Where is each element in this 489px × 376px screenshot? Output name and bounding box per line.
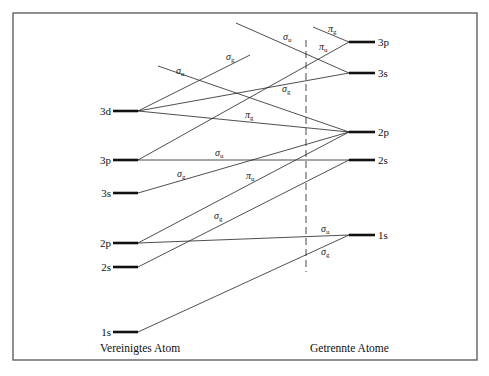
symmetry-label: σu — [283, 31, 292, 44]
correlation-line — [138, 73, 349, 111]
level-label-1s: 1s — [378, 229, 388, 241]
united-atom-label: Vereinigtes Atom — [100, 342, 180, 355]
level-label-3p: 3p — [100, 154, 112, 166]
symmetry-label: σu — [321, 223, 330, 236]
level-label-3s: 3s — [378, 67, 388, 79]
correlation-line — [138, 132, 349, 243]
correlation-line — [138, 111, 349, 132]
level-label-2s: 2s — [378, 154, 388, 166]
separated-atoms-label: Getrennte Atome — [310, 342, 389, 354]
correlation-line — [138, 160, 349, 267]
separated-atom-levels: 3p3s2p2s1s — [349, 36, 390, 241]
united-atom-levels: 3d3p3s2p2s1s — [100, 105, 138, 338]
level-label-3d: 3d — [100, 105, 112, 117]
correlation-line — [138, 235, 349, 332]
level-label-2p: 2p — [100, 237, 112, 249]
symmetry-label: σu — [215, 147, 224, 160]
level-label-1s: 1s — [101, 326, 111, 338]
correlation-diagram: σgσgπgσuσuπgπuσuσgπuσuσgσg 3d3p3s2p2s1s … — [0, 0, 489, 376]
level-label-3s: 3s — [101, 187, 111, 199]
symmetry-label: σg — [321, 246, 330, 259]
symmetry-label: σg — [177, 168, 186, 181]
level-label-3p: 3p — [378, 36, 390, 48]
level-label-2s: 2s — [101, 261, 111, 273]
symmetry-label: πg — [245, 109, 254, 122]
level-label-2p: 2p — [378, 126, 390, 138]
correlation-line — [138, 132, 349, 193]
symmetry-label: σg — [226, 51, 235, 64]
symmetry-label: σg — [214, 210, 223, 223]
symmetry-label: πu — [246, 170, 255, 183]
correlation-line — [138, 235, 349, 243]
orbital-correlation-lines: σgσgπgσuσuπgπuσuσgπuσuσgσg — [138, 23, 349, 332]
symmetry-label: σg — [282, 83, 291, 96]
symmetry-label: πu — [319, 41, 328, 54]
symmetry-label: σu — [176, 65, 185, 78]
correlation-line — [138, 42, 349, 160]
